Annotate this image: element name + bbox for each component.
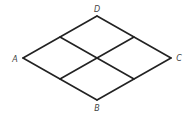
midline-segments <box>60 37 134 79</box>
label-D: D <box>94 5 100 14</box>
label-C: C <box>176 54 182 63</box>
rhombus-diagram: D A C B <box>0 0 190 119</box>
label-B: B <box>94 104 100 113</box>
label-A: A <box>11 55 17 64</box>
